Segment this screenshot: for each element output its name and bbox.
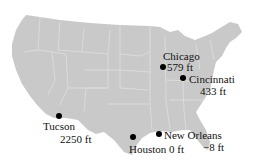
- cincinnati-elevation: 433 ft: [200, 85, 226, 97]
- tucson-marker: [56, 113, 62, 119]
- cincinnati-marker: [180, 75, 186, 81]
- houston-elevation: 0 ft: [169, 143, 184, 155]
- us-elevation-map: Chicago 579 ft Cincinnati 433 ft Tucson …: [0, 0, 260, 167]
- new-orleans-name: New Orleans: [164, 129, 222, 141]
- houston-label-name: Houston: [129, 143, 166, 155]
- cincinnati-name: Cincinnati: [189, 73, 235, 85]
- tucson-elevation: 2250 ft: [60, 133, 91, 145]
- new-orleans-elevation: −8 ft: [203, 141, 224, 153]
- houston-marker: [130, 134, 136, 140]
- chicago-marker: [160, 64, 166, 70]
- new-orleans-marker: [156, 131, 162, 137]
- chicago-elevation: 579 ft: [167, 61, 193, 73]
- tucson-name: Tucson: [43, 120, 75, 132]
